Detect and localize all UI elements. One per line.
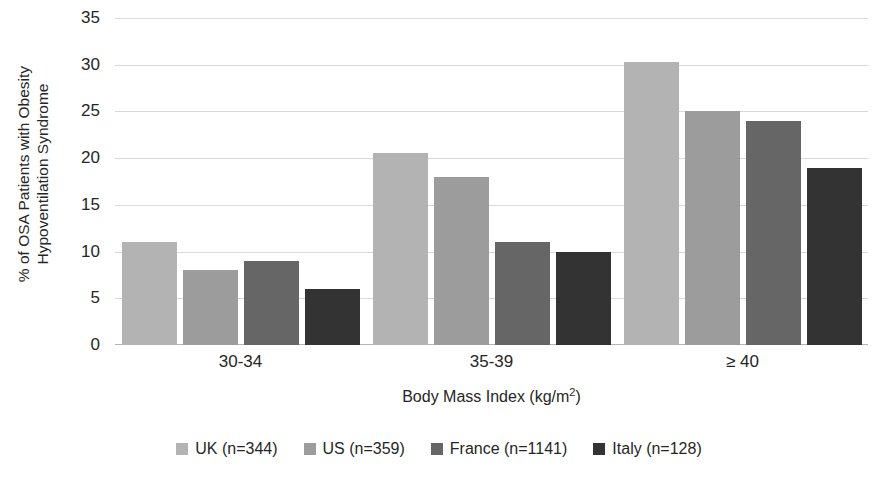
legend-item[interactable]: US (n=359) [304,440,405,458]
y-axis-title: % of OSA Patients with Obesity Hypoventi… [5,18,61,330]
bar[interactable] [122,242,177,345]
legend: UK (n=344)US (n=359)France (n=1141)Italy… [0,436,878,462]
x-axis-tick-label: 30-34 [115,352,366,384]
x-axis-tick-labels: 30-3435-39≥ 40 [115,352,868,384]
legend-item[interactable]: UK (n=344) [176,440,277,458]
y-axis-tick-label: 15 [81,195,100,215]
bar[interactable] [434,177,489,345]
y-axis-tick-label: 0 [91,335,100,355]
y-axis-tick-label: 10 [81,242,100,262]
bar-group [366,18,617,345]
legend-swatch-icon [304,443,316,455]
x-axis-title-base: Body Mass Index (kg/m [402,388,569,405]
x-axis-tick-label: 35-39 [366,352,617,384]
x-axis-title: Body Mass Index (kg/m2) [115,386,868,406]
legend-label: France (n=1141) [450,440,568,458]
y-axis-tick-label: 25 [81,101,100,121]
legend-swatch-icon [176,443,188,455]
bar[interactable] [807,168,862,345]
bar[interactable] [556,252,611,345]
bar-group [617,18,868,345]
bar[interactable] [624,62,679,345]
legend-swatch-icon [593,443,605,455]
bar-groups [115,18,868,345]
y-axis-tick-label: 30 [81,55,100,75]
bar-chart-figure: % of OSA Patients with Obesity Hypoventi… [0,0,878,477]
y-axis-tick-labels: 05101520253035 [60,18,108,345]
legend-label: UK (n=344) [195,440,277,458]
legend-item[interactable]: Italy (n=128) [593,440,701,458]
bar[interactable] [244,261,299,345]
bar[interactable] [305,289,360,345]
legend-label: Italy (n=128) [612,440,701,458]
plot-area [115,18,868,345]
x-axis-title-tail: ) [575,388,580,405]
bar[interactable] [495,242,550,345]
bar[interactable] [183,270,238,345]
legend-item[interactable]: France (n=1141) [431,440,568,458]
y-axis-tick-label: 35 [81,8,100,28]
y-axis-title-container: % of OSA Patients with Obesity Hypoventi… [0,0,56,350]
x-axis-tick-label: ≥ 40 [617,352,868,384]
bar[interactable] [373,153,428,345]
y-axis-tick-label: 5 [91,288,100,308]
bar[interactable] [685,111,740,345]
y-axis-tick-label: 20 [81,148,100,168]
legend-swatch-icon [431,443,443,455]
bar-group [115,18,366,345]
legend-label: US (n=359) [323,440,405,458]
bar[interactable] [746,121,801,345]
